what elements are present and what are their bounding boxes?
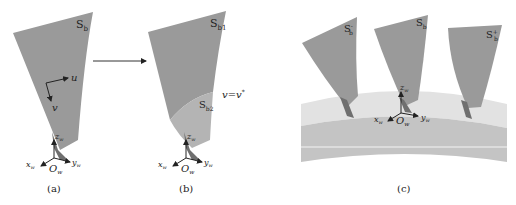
panel-b: Sb1 Sb2 v=v* zw xw yw Ow (b) [148,11,245,194]
panel-a: Sb u v zw xw yw Ow (a) [13,12,93,194]
origin-label: Ow [49,163,63,175]
x-label: xw [26,160,36,170]
figure-canvas: Sb u v zw xw yw Ow (a) Sb1 Sb2 v=v* zw x… [0,0,516,205]
caption-a: (a) [47,183,61,194]
blade-right-label: S+b [486,28,498,42]
boundary-label: v=v* [222,88,245,100]
y-label: yw [71,158,82,168]
panel-c: S-b Sb S+b zw xw yw Ow (c) [301,15,507,194]
u-label: u [71,72,77,83]
caption-b: (b) [179,183,193,194]
caption-c: (c) [397,183,411,194]
y-label: yw [203,158,214,168]
v-label: v [52,102,58,113]
x-label: xw [158,160,168,170]
blade-left-label: S-b [344,22,353,36]
origin-label: Ow [181,163,195,175]
